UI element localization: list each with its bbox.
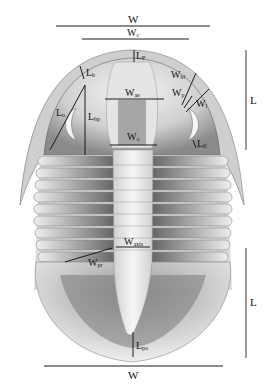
label-Lfl: Lfl [197, 139, 207, 149]
trilobite-diagram: W Wc LP Lb Wbl Wae Wp Wl Lo Lbp Wo Lfl W… [0, 0, 268, 391]
label-L-pygidium: L [250, 297, 257, 308]
label-Lbp: Lbp [88, 112, 100, 122]
label-W-bottom: W [128, 370, 138, 381]
label-Wbl: Wbl [171, 70, 185, 80]
label-Wpr: Wpr [88, 258, 102, 268]
label-Lb: Lb [86, 68, 95, 78]
label-Wc: Wc [127, 28, 139, 38]
label-Waxis: Waxis [124, 237, 143, 247]
label-Lp: LP [136, 51, 145, 61]
label-Lpo: Lpo [136, 341, 148, 351]
label-Wo: Wo [127, 132, 139, 142]
label-Wp: Wp [172, 88, 184, 98]
label-Wl: Wl [196, 99, 207, 109]
trilobite-illustration [0, 0, 268, 391]
label-L-cephalon: L [250, 95, 257, 106]
label-W-top: W [128, 14, 138, 25]
label-Lo: Lo [56, 108, 65, 118]
label-Wae: Wae [125, 88, 140, 98]
